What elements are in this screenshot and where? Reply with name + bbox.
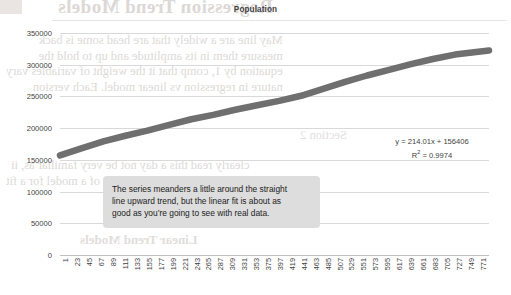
y-axis-tick-label: 0 <box>48 251 52 260</box>
x-axis-tick-label: 771 <box>480 258 487 270</box>
x-axis-tick-label: 265 <box>205 258 212 270</box>
y-axis-tick-label: 250000 <box>27 92 52 101</box>
x-axis-tick-label: 485 <box>325 258 332 270</box>
annotation-callout: The series meanders a little around the … <box>103 176 320 228</box>
r2-value: = 0.9974 <box>420 151 452 160</box>
x-axis-tick-label: 639 <box>408 258 415 270</box>
x-axis-tick-label: 155 <box>146 258 153 270</box>
trendline-equation-line: y = 214.01x + 156406 <box>366 136 498 147</box>
trendline-equation: y = 214.01x + 156406 R2 = 0.9974 <box>366 136 498 161</box>
x-axis-line <box>60 255 489 256</box>
y-axis-tick-label: 200000 <box>27 124 52 133</box>
x-axis-tick-label: 617 <box>396 258 403 270</box>
x-axis-tick-label: 551 <box>360 258 367 270</box>
x-axis-tick-label: 419 <box>289 258 296 270</box>
x-axis-tick-label: 529 <box>348 258 355 270</box>
x-axis-tick-label: 1 <box>62 258 69 262</box>
y-axis-tick-label: 350000 <box>27 29 52 38</box>
annotation-line-3: good as you’re going to see with real da… <box>112 207 311 219</box>
trendline-r2-line: R2 = 0.9974 <box>366 147 498 161</box>
x-axis-tick-label: 331 <box>241 258 248 270</box>
x-axis-tick-label: 683 <box>432 258 439 270</box>
x-axis-tick-label: 397 <box>277 258 284 270</box>
x-axis-tick-label: 353 <box>253 258 260 270</box>
x-axis-tick-label: 133 <box>134 258 141 270</box>
y-axis-tick-label: 150000 <box>27 155 52 164</box>
chart-title: Population <box>0 5 511 14</box>
annotation-line-1: The series meanders a little around the … <box>112 183 311 195</box>
x-axis-tick-label: 463 <box>313 258 320 270</box>
x-axis-tick-label: 177 <box>158 258 165 270</box>
x-axis-tick-label: 89 <box>110 258 117 266</box>
y-axis-tick-label: 100000 <box>27 187 52 196</box>
x-axis-tick-label: 309 <box>229 258 236 270</box>
x-axis-tick-label: 595 <box>384 258 391 270</box>
x-axis-tick-label: 199 <box>170 258 177 270</box>
x-axis-tick-label: 705 <box>444 258 451 270</box>
x-axis-tick-label: 221 <box>182 258 189 270</box>
x-axis-tick-label: 441 <box>301 258 308 270</box>
y-axis-labels: 0500001000001500002000002500003000003500… <box>0 33 55 255</box>
y-axis-tick-label: 50000 <box>31 219 52 228</box>
x-axis-tick-label: 243 <box>194 258 201 270</box>
y-axis-tick-label: 300000 <box>27 60 52 69</box>
x-axis-tick-label: 67 <box>98 258 105 266</box>
x-axis-tick-label: 507 <box>337 258 344 270</box>
x-axis-tick-label: 45 <box>86 258 93 266</box>
population-chart: Population 05000010000015000020000025000… <box>0 0 511 295</box>
x-axis-tick-label: 111 <box>122 258 129 269</box>
chart-screenshot: Regression Trend Models May line are a w… <box>0 0 511 295</box>
x-axis-tick-label: 749 <box>468 258 475 270</box>
x-axis-tick-label: 727 <box>456 258 463 270</box>
x-axis-tick-label: 287 <box>217 258 224 270</box>
x-axis-tick-label: 375 <box>265 258 272 270</box>
x-axis-tick-label: 661 <box>420 258 427 270</box>
x-axis-tick-label: 573 <box>372 258 379 270</box>
x-axis-tick-label: 23 <box>74 258 81 266</box>
x-axis-labels: 1234567891111331551771992212432652873093… <box>60 258 489 295</box>
annotation-line-2: line upward trend, but the linear fit is… <box>112 195 311 207</box>
